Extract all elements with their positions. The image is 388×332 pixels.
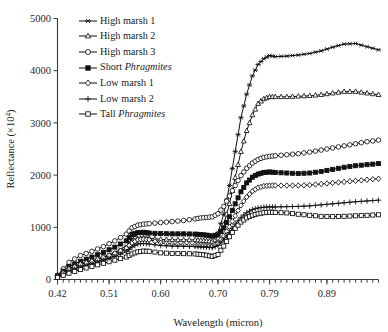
marker-square-open	[84, 266, 88, 270]
legend-item[interactable]: Low marsh 1	[78, 75, 172, 91]
legend-item[interactable]: High marsh 2	[78, 29, 172, 45]
marker-square-open	[101, 261, 105, 265]
marker-plus	[370, 198, 376, 204]
marker-square-solid	[225, 220, 229, 224]
marker-square-open	[354, 214, 358, 218]
marker-square-solid	[376, 162, 380, 166]
legend-item[interactable]: Short Phragmites	[78, 60, 172, 76]
marker-square-open	[153, 250, 157, 254]
legend-item[interactable]: High marsh 3	[78, 44, 172, 60]
marker-square-solid	[313, 170, 317, 174]
marker-square-solid	[233, 202, 237, 206]
marker-square-open	[182, 252, 186, 256]
marker-square-open	[219, 248, 223, 252]
marker-circle	[342, 144, 347, 149]
marker-triangle	[325, 91, 330, 95]
marker-square-solid	[348, 164, 352, 168]
marker-plus	[324, 202, 330, 208]
marker-square-open	[119, 257, 123, 261]
legend-item[interactable]: High marsh 1	[78, 13, 172, 29]
marker-triangle	[187, 237, 192, 241]
marker-square-solid	[354, 164, 358, 168]
marker-square-open	[290, 212, 294, 216]
marker-asterisk	[370, 46, 375, 50]
marker-square-solid	[230, 208, 234, 212]
marker-circle	[359, 140, 364, 145]
marker-circle	[230, 188, 235, 193]
marker-triangle	[307, 93, 312, 97]
marker-diamond	[336, 180, 341, 186]
legend-swatch	[78, 108, 98, 120]
x-axis-tick-label: 0.51	[100, 288, 118, 299]
marker-square-open	[336, 214, 340, 218]
marker-square-solid	[302, 171, 306, 175]
marker-triangle	[290, 94, 295, 98]
marker-triangle	[330, 91, 335, 95]
marker-square-solid	[182, 232, 186, 236]
marker-square-open	[359, 214, 363, 218]
marker-square-solid	[336, 166, 340, 170]
marker-circle	[187, 217, 192, 222]
y-axis-tick-label: 4000	[30, 65, 51, 76]
marker-circle	[285, 152, 290, 157]
marker-asterisk	[85, 19, 91, 23]
marker-diamond	[325, 181, 330, 187]
marker-asterisk	[324, 47, 329, 51]
marker-asterisk	[376, 48, 381, 52]
marker-asterisk	[353, 42, 358, 46]
marker-plus	[307, 203, 313, 209]
marker-triangle	[376, 92, 381, 96]
marker-diamond	[273, 183, 278, 189]
marker-asterisk	[301, 52, 306, 56]
marker-square-solid	[187, 232, 191, 236]
marker-square-solid	[222, 226, 226, 230]
marker-circle	[113, 239, 118, 244]
marker-plus	[284, 204, 290, 210]
marker-square-open	[325, 214, 329, 218]
marker-square-solid	[86, 65, 90, 69]
marker-plus	[330, 201, 336, 207]
legend-item[interactable]: Tall Phragmites	[78, 107, 172, 123]
marker-asterisk	[273, 55, 278, 59]
marker-plus	[318, 202, 324, 208]
marker-square-solid	[176, 232, 180, 236]
marker-circle	[118, 235, 123, 240]
marker-circle	[365, 139, 370, 144]
marker-triangle	[296, 94, 301, 98]
marker-triangle	[365, 91, 370, 95]
marker-square-open	[225, 239, 229, 243]
marker-square-open	[308, 213, 312, 217]
marker-square-open	[227, 235, 231, 239]
marker-square-solid	[342, 165, 346, 169]
marker-plus	[313, 203, 319, 209]
marker-asterisk	[290, 54, 295, 58]
marker-square-open	[86, 112, 90, 116]
marker-asterisk	[364, 45, 369, 49]
legend-item-label: High marsh 1	[100, 16, 155, 26]
marker-plus	[376, 197, 382, 203]
marker-circle	[221, 204, 226, 209]
marker-circle	[325, 147, 330, 152]
marker-square-open	[302, 213, 306, 217]
marker-square-solid	[331, 167, 335, 171]
legend-item[interactable]: Low marsh 2	[78, 91, 172, 107]
marker-asterisk	[313, 50, 318, 54]
marker-triangle	[284, 94, 289, 98]
y-axis-tick-label: 1000	[30, 222, 51, 233]
marker-square-open	[147, 249, 151, 253]
marker-circle	[107, 241, 112, 246]
marker-triangle	[347, 89, 352, 93]
marker-diamond	[353, 178, 358, 184]
x-axis-tick-label: 0.89	[318, 288, 336, 299]
marker-triangle	[336, 90, 341, 94]
marker-circle	[153, 221, 158, 226]
marker-square-open	[159, 251, 163, 255]
marker-diamond	[302, 183, 307, 189]
marker-square-open	[376, 213, 380, 217]
marker-circle	[336, 145, 341, 150]
marker-square-solid	[319, 169, 323, 173]
legend-item-label: Low marsh 1	[100, 78, 154, 88]
marker-diamond	[342, 179, 347, 185]
marker-triangle	[302, 93, 307, 97]
marker-square-solid	[273, 170, 277, 174]
